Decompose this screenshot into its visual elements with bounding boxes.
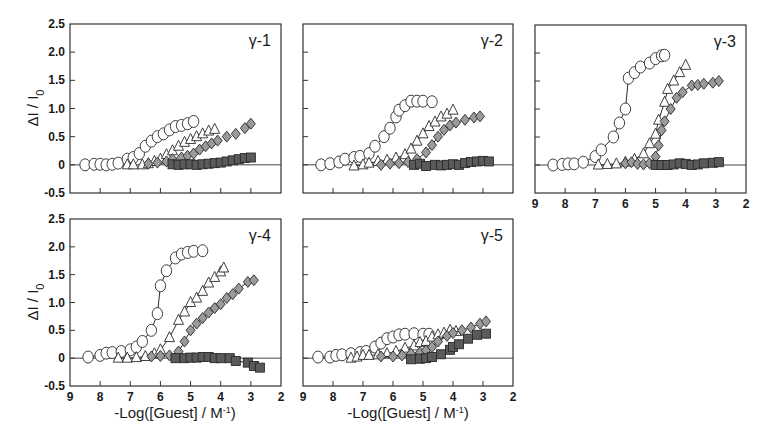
x-tick-label: 7 (127, 390, 134, 404)
y-axis-title-bottom: ΔI / I0 (24, 284, 46, 321)
x-tick-label: 4 (217, 390, 224, 404)
series-triangle (593, 59, 690, 169)
square-marker (422, 161, 431, 170)
y-axis-title-subscript: 0 (34, 284, 46, 290)
y-axis-title-subscript: 0 (34, 90, 46, 96)
x-tick-label: 8 (562, 197, 569, 211)
triangle-marker (645, 138, 655, 148)
circle-marker (313, 351, 323, 363)
panel-title: γ-5 (481, 227, 503, 244)
circle-marker (608, 131, 618, 143)
square-marker (231, 356, 240, 365)
panels-group: -0.500.51.01.52.02.5γ-1γ-298765432γ-3-0.… (44, 17, 749, 404)
circle-marker (161, 265, 171, 277)
series-square (651, 158, 723, 170)
x-tick-label: 9 (300, 390, 307, 404)
panel-5: 98765432γ-5 (300, 219, 517, 404)
panel-4: -0.500.51.01.52.02.598765432γ-4 (44, 212, 284, 404)
y-tick-label: 0 (58, 158, 65, 172)
x-axis-title-superscript: -1 (456, 405, 464, 415)
panel-title: γ-3 (714, 33, 736, 50)
circle-marker (659, 49, 669, 61)
circle-marker (385, 122, 395, 134)
square-marker (255, 363, 264, 372)
y-axis-title-text: ΔI / I (24, 96, 41, 127)
y-tick-label: 0 (58, 351, 65, 365)
square-marker (482, 329, 491, 338)
square-marker (455, 340, 464, 349)
panel-title: γ-2 (481, 32, 503, 49)
y-tick-label: 1.0 (48, 296, 65, 310)
x-tick-label: 8 (330, 390, 337, 404)
square-marker (699, 159, 708, 168)
circle-marker (578, 156, 588, 168)
x-tick-label: 9 (67, 390, 74, 404)
x-tick-label: 2 (278, 390, 285, 404)
circle-marker (155, 280, 165, 292)
y-tick-label: 2.5 (48, 212, 65, 226)
x-tick-label: 9 (532, 197, 539, 211)
circle-marker (152, 308, 162, 320)
y-tick-label: 2.0 (48, 45, 65, 59)
panel-3: 98765432γ-3 (532, 25, 750, 211)
square-marker (714, 158, 723, 167)
x-axis-title-close: ) (464, 404, 469, 421)
y-tick-label: 2.0 (48, 240, 65, 254)
square-marker (407, 355, 416, 364)
diamond-marker (699, 78, 708, 89)
diamond-marker (461, 114, 470, 125)
diamond-marker (180, 336, 189, 347)
circle-marker (146, 324, 156, 336)
y-tick-label: 1.5 (48, 73, 65, 87)
panel-2: γ-2 (303, 24, 513, 193)
diamond-marker (222, 131, 231, 142)
x-tick-label: 6 (157, 390, 164, 404)
triangle-marker (660, 96, 670, 106)
circle-marker (83, 351, 93, 363)
x-tick-label: 6 (622, 197, 629, 211)
square-marker (485, 157, 494, 166)
circle-marker (188, 115, 198, 127)
diamond-marker (231, 128, 240, 139)
diamond-marker (654, 140, 663, 151)
y-tick-label: -0.5 (44, 186, 65, 200)
panel-title: γ-4 (249, 227, 271, 244)
y-tick-label: 2.5 (48, 17, 65, 31)
series-square (410, 156, 494, 170)
square-marker (171, 354, 180, 363)
circle-marker (427, 96, 437, 108)
x-axis-title-right: -Log([Guest] / M-1) (347, 404, 468, 421)
x-tick-label: 6 (390, 390, 397, 404)
triangle-marker (180, 306, 190, 316)
x-axis-title-close: ) (231, 404, 236, 421)
triangle-marker (639, 148, 649, 158)
square-marker (473, 330, 482, 339)
panel-1: -0.500.51.01.52.02.5γ-1 (44, 17, 281, 200)
triangle-marker (602, 158, 612, 168)
x-tick-label: 4 (450, 390, 457, 404)
x-tick-label: 3 (713, 197, 720, 211)
triangle-marker (210, 123, 220, 133)
x-tick-label: 5 (187, 390, 194, 404)
titration-figure: -0.500.51.01.52.02.5γ-1γ-298765432γ-3-0.… (0, 0, 760, 442)
triangle-marker (164, 332, 174, 342)
x-tick-label: 5 (420, 390, 427, 404)
x-tick-label: 7 (360, 390, 367, 404)
x-axis-title-text: -Log([Guest] / M (347, 404, 455, 421)
square-marker (216, 354, 225, 363)
panel-title: γ-1 (249, 32, 271, 49)
x-tick-label: 7 (592, 197, 599, 211)
x-tick-label: 2 (510, 390, 517, 404)
series-square (171, 353, 264, 373)
series-circle (548, 49, 670, 171)
square-marker (464, 334, 473, 343)
circle-marker (614, 117, 624, 129)
x-tick-label: 3 (248, 390, 255, 404)
square-marker (428, 353, 437, 362)
triangle-marker (681, 59, 691, 69)
y-tick-label: -0.5 (44, 379, 65, 393)
circle-marker (370, 140, 380, 152)
circle-marker (137, 335, 147, 347)
y-tick-label: 0.5 (48, 323, 65, 337)
x-axis-title-superscript: -1 (223, 405, 231, 415)
